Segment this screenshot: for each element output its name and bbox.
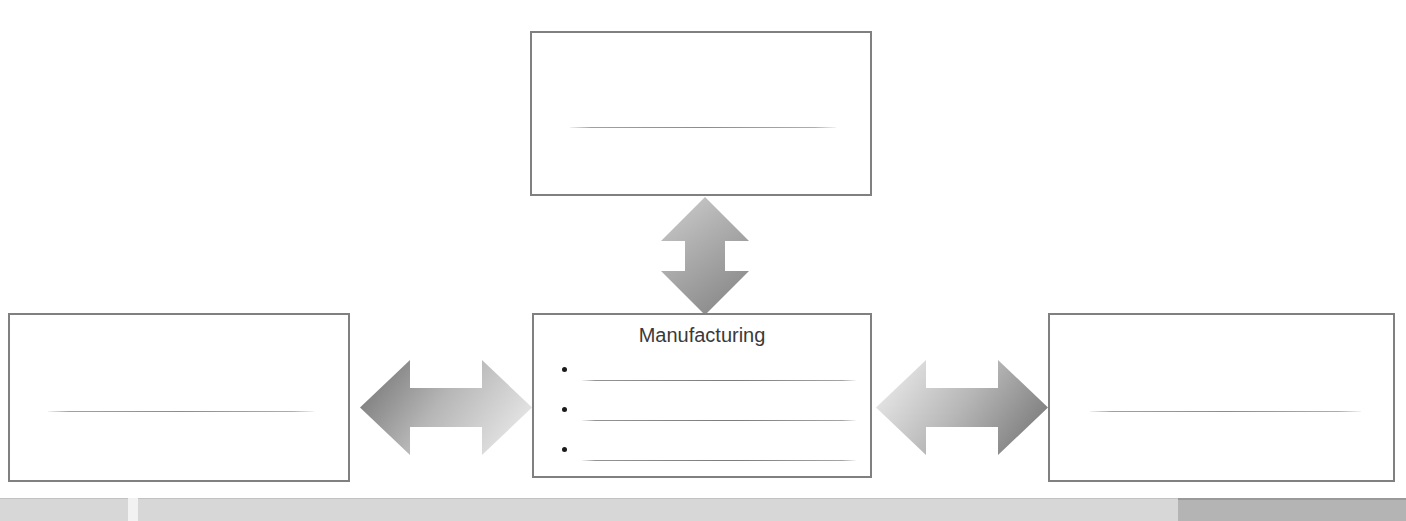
bottom-bar-highlight-segment[interactable]: [1178, 498, 1406, 521]
center-box-inner: Manufacturing: [534, 315, 870, 476]
bullet-blank-line[interactable]: [582, 420, 856, 421]
left-box-inner: [10, 315, 348, 480]
left-box[interactable]: [8, 313, 350, 482]
arrow-right-double[interactable]: [876, 360, 1048, 455]
slide-canvas: Manufacturing: [0, 0, 1406, 521]
bullet-dot-icon: [562, 407, 567, 412]
right-box[interactable]: [1048, 313, 1395, 482]
arrow-left-double[interactable]: [360, 360, 532, 455]
top-box-inner: [532, 33, 870, 194]
arrow-vertical-double[interactable]: [661, 197, 749, 315]
center-box-title: Manufacturing: [534, 323, 870, 347]
bullet-dot-icon: [562, 367, 567, 372]
bullet-blank-line[interactable]: [582, 460, 856, 461]
center-box[interactable]: Manufacturing: [532, 313, 872, 478]
bullet-dot-icon: [562, 447, 567, 452]
bottom-bar[interactable]: [0, 498, 1406, 521]
right-box-blank-line[interactable]: [1090, 411, 1361, 412]
top-box[interactable]: [530, 31, 872, 196]
bottom-bar-notch: [128, 498, 138, 521]
center-box-bullet-2[interactable]: [534, 401, 870, 435]
center-box-bullet-1[interactable]: [534, 361, 870, 395]
left-box-blank-line[interactable]: [48, 411, 314, 412]
double-arrow-horizontal-right-icon: [876, 360, 1048, 455]
bullet-blank-line[interactable]: [582, 380, 856, 381]
top-box-blank-line[interactable]: [570, 127, 836, 128]
right-box-inner: [1050, 315, 1393, 480]
center-box-bullet-3[interactable]: [534, 441, 870, 475]
double-arrow-horizontal-left-icon: [360, 360, 532, 455]
double-arrow-vertical-icon: [661, 197, 749, 315]
